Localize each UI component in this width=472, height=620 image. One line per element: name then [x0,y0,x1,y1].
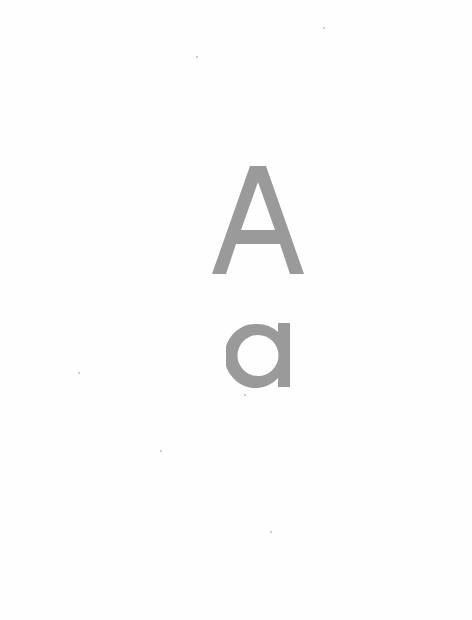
lowercase-letter: a [226,320,292,390]
scanned-page: A a [0,0,472,620]
scan-speck [78,372,80,374]
scan-speck [323,27,325,29]
scan-speck [270,531,272,533]
scan-speck [196,56,198,58]
scan-speck [160,450,162,452]
uppercase-letter: A [212,164,304,276]
scan-speck [244,394,246,396]
